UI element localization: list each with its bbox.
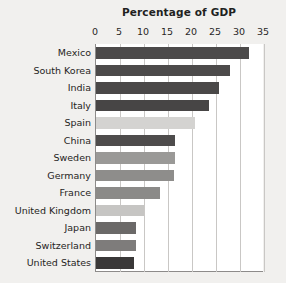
bar-row	[96, 167, 264, 185]
bar-row	[96, 149, 264, 167]
bar[interactable]	[96, 257, 134, 269]
x-axis-tick-labels: 05101520253035	[0, 26, 286, 40]
bar[interactable]	[96, 187, 160, 199]
plot-area	[95, 44, 263, 272]
y-axis-label-united-kingdom: United Kingdom	[0, 202, 91, 220]
y-axis-category-labels: MexicoSouth KoreaIndiaItalySpainChinaSwe…	[0, 44, 91, 272]
y-axis-label-spain: Spain	[0, 114, 91, 132]
x-tick-label: 5	[116, 26, 122, 37]
bar-row	[96, 184, 264, 202]
bar[interactable]	[96, 135, 175, 147]
bar[interactable]	[96, 152, 175, 164]
bar-row	[96, 114, 264, 132]
bar-row	[96, 132, 264, 150]
bar-chart: Percentage of GDP 05101520253035 MexicoS…	[0, 0, 286, 283]
bar[interactable]	[96, 205, 144, 217]
bar-row	[96, 219, 264, 237]
chart-title: Percentage of GDP	[95, 6, 263, 18]
x-tick-label: 15	[161, 26, 173, 37]
bar-row	[96, 254, 264, 272]
y-axis-label-india: India	[0, 79, 91, 97]
bar[interactable]	[96, 65, 230, 77]
gridline	[264, 44, 265, 272]
y-axis-label-mexico: Mexico	[0, 44, 91, 62]
y-axis-label-sweden: Sweden	[0, 149, 91, 167]
x-tick-label: 30	[233, 26, 245, 37]
y-axis-label-south-korea: South Korea	[0, 62, 91, 80]
y-axis-label-japan: Japan	[0, 219, 91, 237]
y-axis-label-italy: Italy	[0, 97, 91, 115]
bar[interactable]	[96, 47, 249, 59]
x-tick-label: 25	[209, 26, 221, 37]
x-tick-label: 0	[92, 26, 98, 37]
bar-row	[96, 62, 264, 80]
bar[interactable]	[96, 82, 219, 94]
bar[interactable]	[96, 117, 195, 129]
bar-row	[96, 97, 264, 115]
bar-row	[96, 79, 264, 97]
x-tick-label: 10	[137, 26, 149, 37]
bar[interactable]	[96, 170, 174, 182]
bar[interactable]	[96, 100, 209, 112]
bar-row	[96, 237, 264, 255]
y-axis-label-china: China	[0, 132, 91, 150]
y-axis-label-france: France	[0, 184, 91, 202]
x-tick-label: 35	[257, 26, 269, 37]
bar[interactable]	[96, 240, 136, 252]
y-axis-label-germany: Germany	[0, 167, 91, 185]
y-axis-label-switzerland: Switzerland	[0, 237, 91, 255]
y-axis-label-united-states: United States	[0, 254, 91, 272]
bar-row	[96, 44, 264, 62]
x-tick-label: 20	[185, 26, 197, 37]
bar-row	[96, 202, 264, 220]
bar[interactable]	[96, 222, 136, 234]
